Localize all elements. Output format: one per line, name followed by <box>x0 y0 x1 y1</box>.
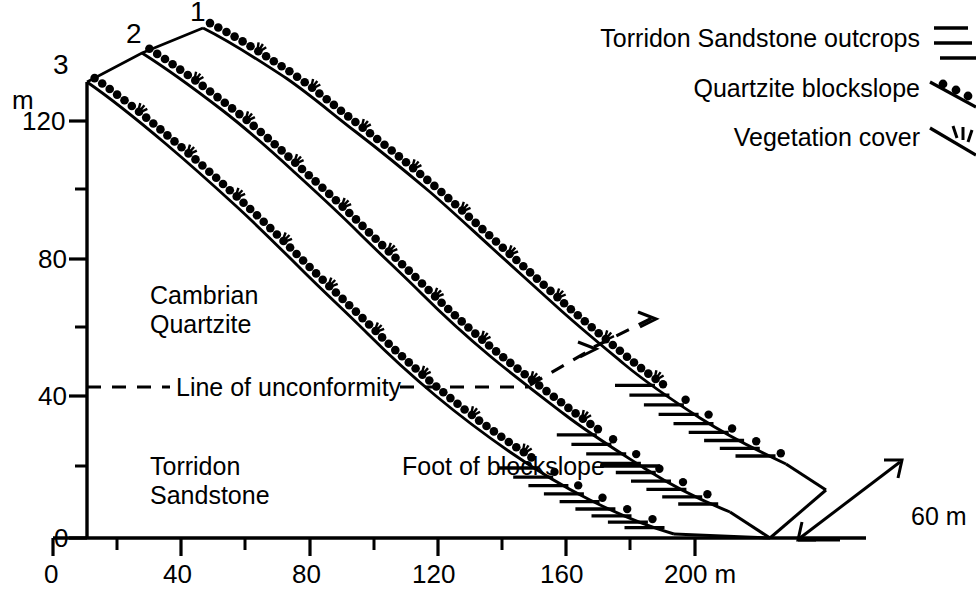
blockslope-dot <box>305 263 314 272</box>
blockslope-dot <box>478 225 487 234</box>
blockslope-dot <box>703 490 711 498</box>
blockslope-dot <box>311 177 320 186</box>
blockslope-dot <box>499 353 508 362</box>
x-tick-label-120: 120 <box>412 560 455 588</box>
blockslope-dots-icon <box>930 80 976 107</box>
blockslope-dot <box>332 288 341 297</box>
blockslope-dot <box>198 161 207 170</box>
blockslope-dot <box>322 95 331 104</box>
blockslope-dot <box>213 93 222 102</box>
y-tick-label-40: 40 <box>38 382 67 410</box>
blockslope-dot <box>679 478 687 486</box>
blockslope-dot <box>191 155 200 164</box>
blockslope-dot <box>460 405 469 414</box>
blockslope-dot <box>176 65 185 74</box>
blockslope-dot <box>648 515 656 523</box>
blockslope-dot <box>285 67 294 76</box>
blockslope-dot <box>358 314 367 323</box>
blockslope-dot <box>402 158 411 167</box>
profile-label-3: 3 <box>53 50 69 80</box>
blockslope-dot <box>471 329 480 338</box>
blockslope-dot <box>616 347 625 356</box>
legend-label-outcrops: Torridon Sandstone outcrops <box>510 25 920 52</box>
blockslope-dot <box>262 52 271 61</box>
blockslope-dot <box>277 62 286 71</box>
foot-of-blockslope-label: Foot of blockslope <box>402 453 605 480</box>
blockslope-dot <box>273 230 282 239</box>
blockslope-dot <box>430 182 439 191</box>
blockslope-dot <box>391 346 400 355</box>
blockslope-dot <box>345 301 354 310</box>
blockslope-dot <box>630 358 639 367</box>
blockslope-dot <box>105 85 114 94</box>
blockslope-dot <box>120 96 129 105</box>
blockslope-dot <box>728 424 736 432</box>
blockslope-dot <box>365 320 374 329</box>
blockslope-dot <box>506 359 515 368</box>
blockslope-dot <box>305 171 314 180</box>
blockslope-dot <box>571 409 580 418</box>
blockslope-dot <box>398 352 407 361</box>
x-tick-label-0: 0 <box>44 560 58 588</box>
blockslope-dot <box>212 174 221 183</box>
blockslope-dot <box>161 55 170 64</box>
block-edge-1-2 <box>786 464 826 490</box>
blockslope-dot <box>205 167 214 176</box>
blockslope-dot <box>411 364 420 373</box>
blockslope-dot <box>365 228 374 237</box>
blockslope-dot <box>564 404 573 413</box>
blockslope-dot <box>632 450 640 458</box>
blockslope-dot <box>659 380 667 388</box>
blockslope-dot <box>153 50 162 59</box>
blockslope-dot <box>352 215 361 224</box>
blockslope-dot <box>206 19 215 28</box>
blockslope-dot <box>163 131 172 140</box>
block-edge-far <box>770 490 826 538</box>
blockslope-dot <box>574 311 583 320</box>
vegetation-tuft-icon <box>930 126 976 155</box>
blockslope-dot <box>259 217 268 226</box>
blockslope-dot <box>266 224 275 233</box>
blockslope-dot <box>380 141 389 150</box>
blockslope-dot <box>98 79 107 88</box>
blockslope-dot <box>405 358 414 367</box>
blockslope-dot <box>330 101 339 110</box>
y-tick-label-0: 0 <box>54 524 68 552</box>
blockslope-dot <box>587 323 596 332</box>
blockslope-dot <box>437 188 446 197</box>
y-tick-label-120: 120 <box>22 107 65 135</box>
profile-label-1: 1 <box>190 0 206 27</box>
blockslope-dot <box>492 237 501 246</box>
blockslope-dot <box>177 143 186 152</box>
x-tick-label-40: 40 <box>163 560 192 588</box>
blockslope-dot <box>437 298 446 307</box>
blockslope-dot <box>351 118 360 127</box>
blockslope-dot <box>398 260 407 269</box>
x-tick-label-80: 80 <box>292 560 321 588</box>
blockslope-dot <box>246 205 255 214</box>
blockslope-dot <box>550 392 559 401</box>
blockslope-dot <box>222 28 231 37</box>
x-tick-label-200: 200 m <box>664 560 736 588</box>
blockslope-dot <box>586 420 595 429</box>
blockslope-dot <box>284 152 293 161</box>
blockslope-dot <box>270 140 279 149</box>
blockslope-dot <box>156 125 165 134</box>
blockslope-dot <box>418 279 427 288</box>
unit-label-torridon-sandstone-line1: Torridon <box>150 453 240 480</box>
blockslope-dot <box>425 376 434 385</box>
blockslope-dot <box>520 370 529 379</box>
blockslope-dot <box>300 78 309 87</box>
blockslope-dot <box>235 110 244 119</box>
blockslope-dot <box>546 287 555 296</box>
blockslope-dot <box>277 146 286 155</box>
blockslope-dot <box>198 82 207 91</box>
blockslope-dot <box>337 106 346 115</box>
blockslope-dot <box>128 102 137 111</box>
blockslope-dot <box>253 211 262 220</box>
unit-label-torridon-sandstone-line2: Sandstone <box>150 482 270 509</box>
blockslope-dot <box>145 45 154 54</box>
blockslope-dot <box>637 364 646 373</box>
blockslope-dot <box>219 180 228 189</box>
blockslope-dot <box>457 317 466 326</box>
